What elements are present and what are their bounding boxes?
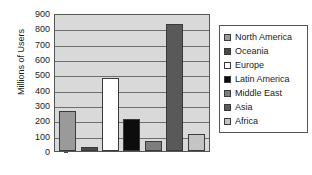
legend-item-label: Europe [235,60,264,70]
legend-item[interactable]: Oceania [224,44,304,58]
legend-item-label: Africa [235,116,258,126]
legend-swatch-icon [224,62,231,69]
y-tick-label: 300 [14,101,50,111]
bar-series [55,15,209,151]
legend-swatch-icon [224,104,231,111]
bar-europe[interactable] [102,78,119,151]
legend-item-label: Asia [235,102,253,112]
legend-swatch-icon [224,76,231,83]
y-tick-label: 800 [14,24,50,34]
y-tick-mark [64,152,68,153]
legend-item-label: Oceania [235,46,269,56]
legend-swatch-icon [224,90,231,97]
legend-item-label: North America [235,32,292,42]
legend-item[interactable]: Africa [224,114,304,128]
y-tick-label: 700 [14,40,50,50]
bar-middle-east[interactable] [145,141,162,151]
y-axis-tick-labels: 9008007006005004003002001000 [14,14,50,152]
bar-north-america[interactable] [59,111,76,151]
legend-item[interactable]: Europe [224,58,304,72]
y-tick-label: 600 [14,55,50,65]
legend-swatch-icon [224,118,231,125]
bar-oceania[interactable] [81,147,98,151]
legend-swatch-icon [224,34,231,41]
legend-swatch-icon [224,48,231,55]
y-tick-label: 200 [14,116,50,126]
bar-chart-figure: Millions of Users 9008007006005004003002… [0,0,312,175]
plot-area [54,14,210,152]
y-tick-label: 400 [14,86,50,96]
legend-item-label: Middle East [235,88,282,98]
legend-item[interactable]: Middle East [224,86,304,100]
y-tick-label: 500 [14,70,50,80]
bar-latin-america[interactable] [123,119,140,151]
legend-item[interactable]: North America [224,30,304,44]
legend-item[interactable]: Latin America [224,72,304,86]
legend-item-label: Latin America [235,74,290,84]
y-tick-label: 100 [14,132,50,142]
bar-asia[interactable] [166,24,183,151]
bar-africa[interactable] [188,134,205,151]
chart-legend: North AmericaOceaniaEuropeLatin AmericaM… [219,25,308,133]
legend-item[interactable]: Asia [224,100,304,114]
y-tick-label: 0 [14,147,50,157]
y-tick-label: 900 [14,9,50,19]
